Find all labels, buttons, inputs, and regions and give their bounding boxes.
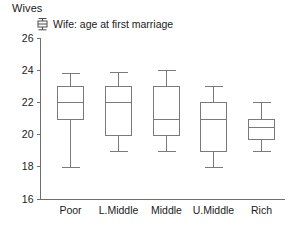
x-axis-category-label: Poor (59, 204, 82, 216)
y-tick-label: 22 (22, 96, 34, 108)
plot-area: 161820222426 PoorL.MiddleMiddleU.MiddleR… (0, 0, 293, 227)
boxplot-item (154, 71, 180, 152)
y-tick-label: 16 (22, 193, 34, 205)
y-tick-label: 24 (22, 64, 34, 76)
box (201, 103, 227, 152)
box-group (58, 71, 275, 168)
y-tick-label: 20 (22, 128, 34, 140)
boxplot-item (249, 103, 275, 152)
axes (41, 38, 286, 200)
box (106, 87, 132, 136)
box (249, 120, 275, 140)
x-axis-category-label: L.Middle (99, 204, 139, 216)
x-axis-category-labels: PoorL.MiddleMiddleU.MiddleRich (59, 204, 272, 216)
boxplot-item (106, 73, 132, 152)
x-axis-category-label: Middle (151, 204, 182, 216)
boxplot-item (201, 87, 227, 168)
x-axis-category-label: Rich (251, 204, 272, 216)
box (154, 87, 180, 136)
x-axis-category-label: U.Middle (193, 204, 235, 216)
boxplot-panel: Wives Wife: age at first marriage 161820… (0, 0, 293, 227)
y-axis-ticks: 161820222426 (22, 32, 41, 205)
y-tick-label: 18 (22, 160, 34, 172)
y-tick-label: 26 (22, 32, 34, 44)
boxplot-item (58, 74, 84, 168)
